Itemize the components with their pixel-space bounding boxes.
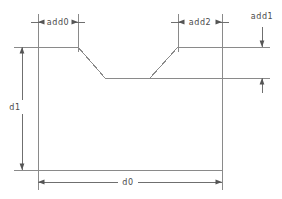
dim-label-add2: add2 xyxy=(189,18,212,27)
arrow-add2-right xyxy=(216,20,223,25)
arrow-add0-right xyxy=(72,20,79,25)
dim-label-d0: d0 xyxy=(122,178,133,187)
dimension-add0: add0 xyxy=(31,18,85,27)
dim-label-add0: add0 xyxy=(47,18,70,27)
arrow-d1-bottom xyxy=(20,164,25,171)
arrow-add0-left xyxy=(38,20,45,25)
arrow-add2-left xyxy=(178,20,185,25)
drawing-canvas: add0 add2 add1 d1 xyxy=(0,0,282,199)
dim-label-add1: add1 xyxy=(251,12,274,21)
dimension-add2: add2 xyxy=(171,18,229,27)
arrow-add1-bottom xyxy=(260,78,265,85)
arrow-d0-left xyxy=(38,180,45,185)
dim-label-d1: d1 xyxy=(9,103,20,112)
arrow-d1-top xyxy=(20,47,25,54)
arrow-d0-right xyxy=(216,180,223,185)
part-profile-outline xyxy=(38,47,222,170)
arrow-add1-top xyxy=(260,41,265,48)
technical-drawing: add0 add2 add1 d1 xyxy=(0,0,282,199)
dimension-d1: d1 xyxy=(9,47,24,170)
dimension-d0: d0 xyxy=(38,178,222,187)
extension-lines xyxy=(14,14,270,190)
dimension-add1: add1 xyxy=(251,12,274,93)
